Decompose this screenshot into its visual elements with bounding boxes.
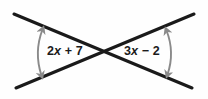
geometry-diagram: 2x + 7 3x − 2 (0, 0, 208, 99)
diagram-canvas (0, 0, 208, 99)
angle-arc-right (167, 31, 171, 75)
left-variable: x (54, 44, 61, 58)
right-coefficient: 3 (124, 44, 131, 58)
right-constant: 2 (153, 44, 160, 58)
angle-label-left: 2x + 7 (47, 45, 83, 58)
left-coefficient: 2 (47, 44, 54, 58)
angle-arc-left (38, 30, 43, 76)
left-constant: 7 (76, 44, 83, 58)
right-variable: x (131, 44, 138, 58)
angle-label-right: 3x − 2 (124, 45, 160, 58)
left-operator: + (65, 44, 72, 58)
right-operator: − (142, 44, 149, 58)
